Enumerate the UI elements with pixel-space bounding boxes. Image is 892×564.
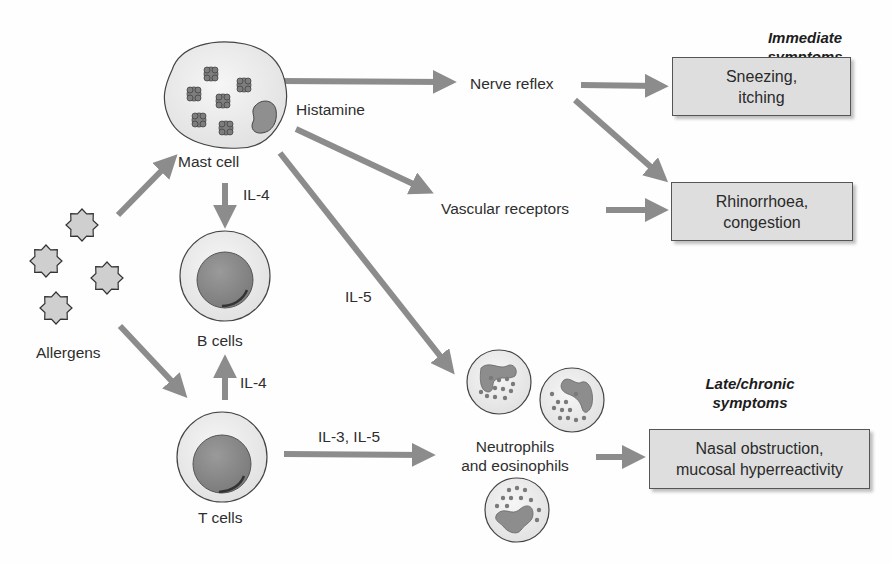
box-line: Rhinorrhoea, [716, 191, 809, 212]
granulocyte-icon [467, 350, 531, 414]
late-chronic-symptoms-heading: Late/chronic symptoms [680, 374, 820, 412]
allergen-particles [30, 209, 123, 324]
box-line: Nasal obstruction, [676, 438, 843, 459]
arrow-t-to-neutrophils [284, 454, 425, 455]
allergens-label: Allergens [36, 343, 101, 362]
sneezing-itching-box: Sneezing, itching [672, 57, 851, 116]
arrow-mast-to-vascular [296, 129, 424, 189]
allergen-icon [91, 262, 123, 294]
t-cells-label: T cells [198, 508, 243, 527]
b-cells-label: B cells [197, 331, 243, 350]
arrow-mast-to-nerve-reflex [280, 81, 446, 82]
b-cell-icon [180, 231, 270, 321]
allergen-icon [66, 209, 98, 241]
t-cell-icon [177, 412, 267, 502]
il4-t-label: IL-4 [240, 373, 267, 392]
arrow-allergens-to-t-cells [120, 326, 180, 390]
mast-cell-icon [164, 42, 286, 148]
granulocyte-icon [485, 478, 549, 542]
allergic-rhinitis-diagram: Immediate symptoms Late/chronic symptoms… [0, 0, 892, 564]
nerve-reflex-label: Nerve reflex [470, 74, 554, 93]
histamine-label: Histamine [296, 100, 365, 119]
label-line: and eosinophils [450, 456, 580, 475]
rhinorrhoea-congestion-box: Rhinorrhoea, congestion [671, 182, 853, 241]
neutrophils-eosinophils-label: Neutrophils and eosinophils [450, 437, 580, 475]
arrow-nerve-to-rhinorrhoea [575, 100, 660, 175]
granulocyte-icon [540, 368, 604, 432]
box-line: mucosal hyperreactivity [676, 459, 843, 480]
arrow-allergens-to-mast-cell [118, 162, 170, 215]
vascular-receptors-label: Vascular receptors [441, 199, 569, 218]
allergen-icon [40, 292, 72, 324]
il5-label: IL-5 [345, 287, 372, 306]
mast-cell-label: Mast cell [178, 152, 239, 171]
arrow-mast-to-neutrophils [280, 153, 448, 366]
il4-mast-label: IL-4 [243, 185, 270, 204]
arrow-nerve-to-sneezing [581, 85, 658, 86]
box-line: congestion [716, 212, 809, 233]
allergen-icon [30, 245, 62, 277]
nasal-obstruction-box: Nasal obstruction, mucosal hyperreactivi… [649, 429, 870, 489]
box-line: Sneezing, [726, 66, 797, 87]
il3-il5-label: IL-3, IL-5 [318, 427, 380, 446]
box-line: itching [726, 87, 797, 108]
label-line: Neutrophils [450, 437, 580, 456]
